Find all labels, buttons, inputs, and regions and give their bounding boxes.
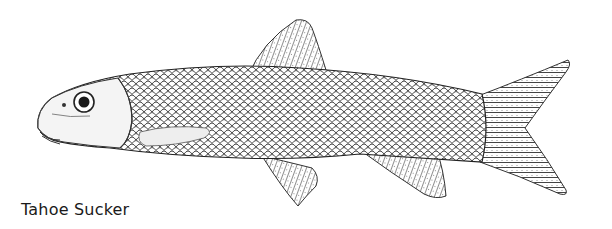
pupil (79, 97, 90, 108)
fish-illustration (0, 0, 612, 229)
caudal-fin (478, 60, 570, 195)
fish-head (38, 78, 132, 148)
figure-caption: Tahoe Sucker (21, 200, 129, 219)
pelvic-fin (262, 156, 317, 206)
